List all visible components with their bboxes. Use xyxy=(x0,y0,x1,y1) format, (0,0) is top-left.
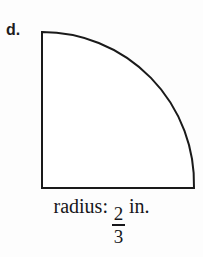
caption: radius: 2 3 in. xyxy=(0,196,203,239)
caption-prefix-label: radius: xyxy=(54,196,108,216)
figure-container: d. radius: 2 3 in. xyxy=(0,0,203,257)
fraction-denominator: 3 xyxy=(113,226,125,246)
fraction-numerator: 2 xyxy=(113,204,125,224)
caption-unit-label: in. xyxy=(129,196,150,216)
quarter-circle-outline xyxy=(42,32,194,188)
caption-row: radius: 2 3 in. xyxy=(54,196,150,239)
fraction-two-thirds: 2 3 xyxy=(112,204,125,246)
